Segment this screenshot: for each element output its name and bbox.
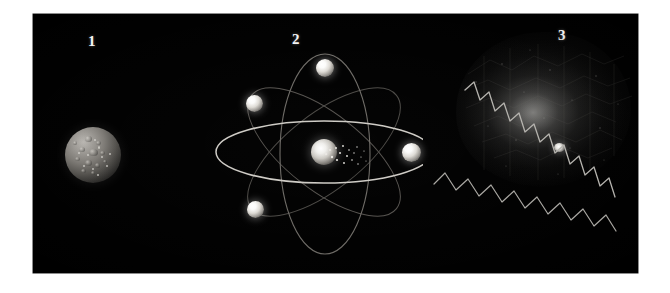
illustration-plate: 1 (33, 14, 638, 273)
crater (79, 147, 85, 152)
surface-highlight (106, 165, 108, 167)
crater (96, 141, 101, 145)
surface-highlight (78, 152, 80, 154)
panel-number-1: 1 (88, 34, 96, 49)
crater (91, 171, 95, 175)
crater (75, 157, 80, 161)
electron (316, 59, 334, 77)
surface-highlight (98, 146, 100, 149)
moon (65, 127, 121, 183)
crater (89, 149, 98, 156)
electron (246, 95, 263, 112)
crater (95, 163, 100, 168)
radiation-waves (418, 14, 638, 273)
panel-atom: 2 (178, 14, 423, 273)
surface-highlight (109, 153, 111, 155)
surface-highlight (97, 174, 99, 176)
panel-nebula: 3 (418, 14, 638, 273)
crater (85, 160, 92, 166)
nucleus-particle-spray (323, 140, 369, 170)
radiation-wave (434, 173, 616, 231)
electron (247, 201, 264, 218)
atom-model (178, 14, 423, 273)
surface-highlight (83, 165, 85, 167)
crater (100, 151, 105, 155)
crater (103, 160, 107, 163)
atom-orbits (178, 14, 423, 273)
nebula-radiation (418, 14, 638, 273)
figure-root: 1 (0, 0, 670, 293)
surface-highlight (101, 156, 103, 158)
crater (73, 141, 77, 145)
surface-highlight (94, 139, 96, 141)
surface-highlight (92, 168, 94, 170)
radiation-wave (465, 82, 615, 197)
surface-highlight (87, 154, 89, 156)
crater (81, 169, 86, 173)
panel-moon-description: Cratered rocky moon lit from the upper l… (33, 14, 34, 15)
figure-caption: Three-panel astronomical illustration on… (0, 0, 1, 1)
crater (85, 136, 92, 142)
